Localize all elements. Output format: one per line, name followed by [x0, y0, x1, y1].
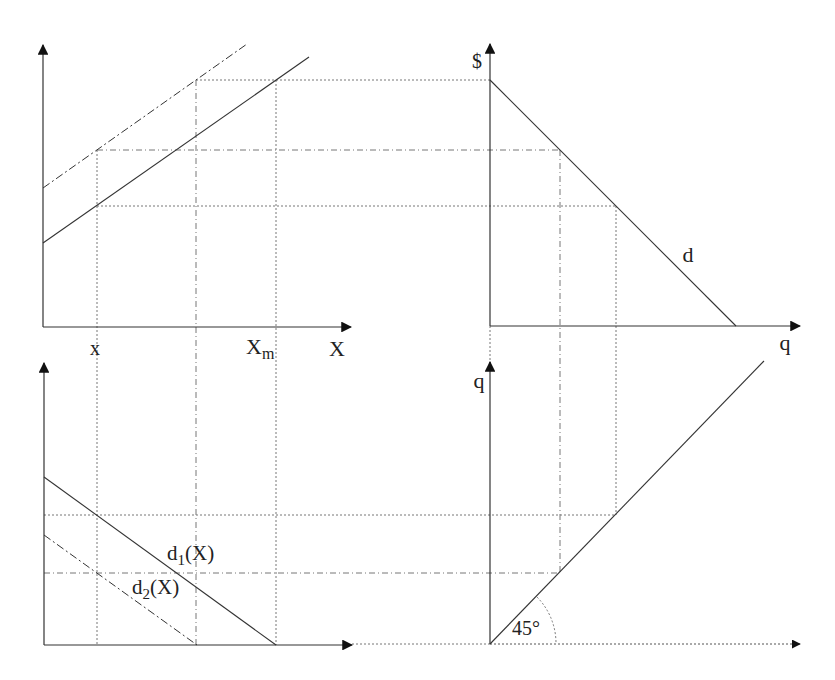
tick-label-xm: Xm	[246, 334, 275, 362]
guide-lines	[44, 80, 616, 645]
d1-label: d1(X)	[167, 541, 214, 568]
d2-label: d2(X)	[132, 575, 179, 602]
x-axis-label-q: q	[780, 330, 791, 355]
angle-label: 45°	[512, 617, 540, 639]
top-left-panel: x Xm X	[43, 44, 351, 362]
x-axis-label: X	[329, 336, 345, 361]
y-axis-label-dollar: $	[472, 50, 482, 72]
tick-label-x: x	[90, 337, 100, 359]
top-right-panel: $ d q	[472, 44, 800, 355]
demand-label: d	[683, 242, 694, 267]
four-quadrant-diagram: x Xm X $ d q d1(X) d2(X) q 45°	[0, 0, 835, 680]
bottom-left-panel: d1(X) d2(X)	[44, 363, 352, 645]
forty-five-degree-line	[490, 361, 764, 644]
upper-cost-line	[43, 44, 247, 188]
bottom-right-panel: q 45°	[474, 361, 801, 644]
d1-curve	[44, 477, 276, 645]
y-axis-label-q: q	[474, 368, 485, 393]
demand-curve	[490, 80, 736, 326]
